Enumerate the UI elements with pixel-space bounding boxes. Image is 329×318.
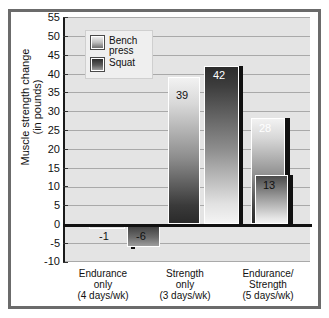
y-tick-0: 0 (32, 219, 60, 229)
y-axis-title: Muscle strength change (in pounds) (19, 27, 43, 187)
y-tickmark-10 (63, 186, 68, 187)
y-tickmark-neg5 (63, 243, 68, 244)
y-tickmark-35 (63, 92, 68, 93)
chart-legend: Benchpress Squat (85, 30, 153, 79)
y-tickmark-30 (63, 111, 68, 112)
x-cat-3-line2: Strength (249, 279, 287, 290)
y-axis-title-line1: Muscle strength change (19, 49, 31, 166)
y-tickmark-5 (63, 205, 68, 206)
gridline-55 (63, 17, 310, 18)
value-label-endurance-squat: -6 (136, 231, 146, 242)
x-cat-3-line3: (5 days/wk) (242, 290, 293, 301)
y-tickmark-45 (63, 55, 68, 56)
y-tickmark-15 (63, 168, 68, 169)
legend-item-squat[interactable]: Squat (91, 58, 135, 71)
gridline-neg10 (63, 261, 310, 262)
legend-label-squat: Squat (109, 58, 135, 68)
x-cat-3-line1: Endurance/ (242, 268, 293, 279)
x-category-endurance-only: Endurance only (4 days/wk) (60, 268, 146, 301)
bench-press-swatch-icon (91, 36, 104, 49)
x-cat-1-line3: (4 days/wk) (77, 290, 128, 301)
y-tickmark-50 (63, 36, 68, 37)
y-tick-neg10: -10 (32, 256, 60, 266)
x-cat-2-line3: (3 days/wk) (159, 290, 210, 301)
x-category-endurance-strength: Endurance/ Strength (5 days/wk) (224, 268, 312, 301)
x-cat-2-line1: Strength (166, 268, 204, 279)
legend-item-bench-press[interactable]: Benchpress (91, 36, 137, 55)
legend-label-bench-line2: press (109, 45, 133, 56)
x-cat-1-line2: only (94, 279, 112, 290)
x-cat-2-line2: only (176, 279, 194, 290)
gridline-neg5 (63, 243, 310, 244)
y-tick-5: 5 (32, 200, 60, 210)
y-tickmark-25 (63, 130, 68, 131)
y-axis-title-line2: (in pounds) (31, 79, 43, 134)
value-label-endurance-bench: -1 (99, 231, 109, 242)
y-tick-neg5: -5 (32, 238, 60, 248)
x-cat-1-line1: Endurance (79, 268, 127, 279)
y-tickmark-20 (63, 149, 68, 150)
x-category-strength-only: Strength only (3 days/wk) (142, 268, 228, 301)
squat-swatch-icon (91, 58, 104, 71)
bar-fill (204, 66, 239, 224)
value-label-endstr-squat: 13 (263, 180, 275, 191)
value-label-strength-squat: 42 (213, 70, 225, 81)
value-label-strength-bench: 39 (176, 90, 188, 101)
y-tickmark-neg10 (63, 262, 68, 263)
y-tickmark-40 (63, 74, 68, 75)
zero-baseline (63, 224, 312, 227)
bar-strength-squat[interactable] (204, 66, 239, 224)
legend-label-bench-press: Benchpress (109, 36, 137, 55)
chart-figure: -1 -6 39 42 28 13 Benchpress Squat 55 50… (0, 0, 329, 318)
y-tickmark-55 (63, 17, 68, 18)
bar-endstr-squat-shadow (288, 175, 293, 224)
value-label-endstr-bench: 28 (259, 123, 271, 134)
y-tick-55: 55 (32, 12, 60, 22)
